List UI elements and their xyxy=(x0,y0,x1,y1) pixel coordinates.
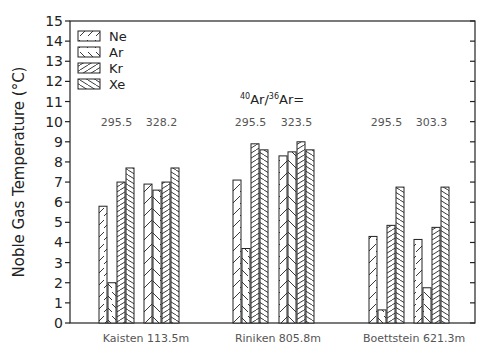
y-tick-label: 9 xyxy=(54,134,63,150)
bar-kr xyxy=(387,225,395,323)
legend-swatch xyxy=(78,79,100,89)
bar-xe xyxy=(441,187,449,323)
bar-ne xyxy=(233,180,241,323)
y-tick-label: 15 xyxy=(45,13,63,29)
legend-swatch xyxy=(78,63,100,73)
y-tick-label: 4 xyxy=(54,234,63,250)
y-axis-label: Noble Gas Temperature (°C) xyxy=(10,67,28,278)
bar-groups xyxy=(99,142,449,323)
bar-ar xyxy=(378,310,386,323)
bar-ne xyxy=(279,156,287,323)
legend-item-xe: Xe xyxy=(78,77,125,92)
bar-kr xyxy=(162,182,170,323)
bar-xe xyxy=(260,150,268,323)
y-tick-label: 12 xyxy=(45,73,63,89)
location-label: Boettstein 621.3m xyxy=(363,332,465,345)
ratio-value: 323.5 xyxy=(281,116,313,129)
bar-xe xyxy=(396,187,404,323)
bar-group xyxy=(144,168,179,323)
y-tick-label: 1 xyxy=(54,295,63,311)
legend-label: Ar xyxy=(109,45,124,60)
bar-kr xyxy=(251,144,259,323)
y-tick-label: 5 xyxy=(54,214,63,230)
bar-ar xyxy=(242,249,250,323)
legend: NeArKrXe xyxy=(78,29,127,92)
bar-xe xyxy=(171,168,179,323)
bar-group xyxy=(279,142,314,323)
legend-label: Xe xyxy=(109,77,125,92)
bar-ne xyxy=(369,236,377,323)
bar-kr xyxy=(297,142,305,323)
location-label: Kaisten 113.5m xyxy=(103,332,189,345)
bar-ar xyxy=(288,152,296,323)
ratio-value: 295.5 xyxy=(371,116,403,129)
y-tick-label: 13 xyxy=(45,53,63,69)
y-tick-label: 10 xyxy=(45,114,63,130)
bar-group xyxy=(369,187,404,323)
ratio-value: 328.2 xyxy=(146,116,178,129)
x-axis-labels: Kaisten 113.5mRiniken 805.8mBoettstein 6… xyxy=(103,332,465,345)
bar-ar xyxy=(153,190,161,323)
bar-group xyxy=(233,144,268,323)
bar-group xyxy=(414,187,449,323)
legend-swatch xyxy=(78,31,100,41)
bar-xe xyxy=(126,168,134,323)
ratio-value: 295.5 xyxy=(235,116,267,129)
bar-ne xyxy=(414,239,422,323)
bar-ne xyxy=(99,206,107,323)
legend-item-kr: Kr xyxy=(78,61,124,76)
legend-label: Kr xyxy=(109,61,124,76)
y-tick-label: 7 xyxy=(54,174,63,190)
ratio-value: 303.3 xyxy=(416,116,448,129)
legend-item-ar: Ar xyxy=(78,45,124,60)
ratio-label: 40Ar/36Ar= xyxy=(240,92,304,107)
ratio-annotations: 295.5328.2295.5323.5295.5303.3 xyxy=(101,116,448,129)
legend-label: Ne xyxy=(109,29,127,44)
ratio-value: 295.5 xyxy=(101,116,133,129)
y-tick-label: 3 xyxy=(54,255,63,271)
bar-ar xyxy=(423,288,431,323)
location-label: Riniken 805.8m xyxy=(235,332,321,345)
bar-kr xyxy=(432,227,440,323)
bar-ne xyxy=(144,184,152,323)
legend-swatch xyxy=(78,47,100,57)
noble-gas-temperature-chart: 0123456789101112131415 295.5328.2295.532… xyxy=(0,0,492,361)
bar-kr xyxy=(117,182,125,323)
bar-group xyxy=(99,168,134,323)
y-tick-label: 11 xyxy=(45,94,63,110)
bar-xe xyxy=(306,150,314,323)
y-tick-label: 14 xyxy=(45,33,63,49)
y-tick-label: 8 xyxy=(54,154,63,170)
legend-item-ne: Ne xyxy=(78,29,127,44)
y-tick-label: 2 xyxy=(54,275,63,291)
y-tick-label: 0 xyxy=(54,315,63,331)
y-tick-label: 6 xyxy=(54,194,63,210)
bar-ar xyxy=(108,283,116,323)
